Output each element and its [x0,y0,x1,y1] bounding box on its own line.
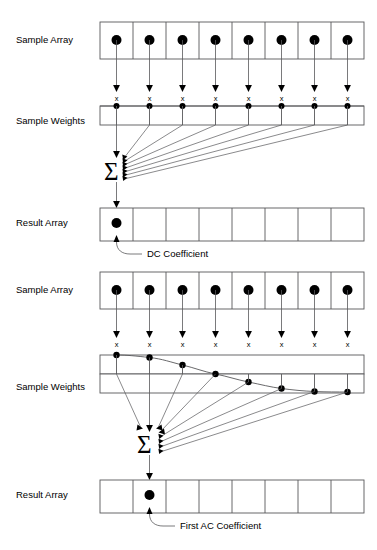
multiply-icon: x [115,94,119,103]
dc-multiply-marks: x x x x x x x x [115,94,350,103]
arrow-head [179,85,186,92]
multiply-icon: x [148,340,152,349]
arrow-head [113,85,120,92]
ac1-summation-symbol: Σ [137,431,152,458]
arrow-head [146,331,153,338]
arrow-head [278,331,285,338]
arrow-head [113,151,120,158]
arrow-head [212,331,219,338]
result-dot [112,218,122,228]
multiply-icon: x [313,94,317,103]
multiply-icon: x [280,94,284,103]
arrow-head [113,201,120,208]
arrow-head [278,85,285,92]
multiply-icon: x [247,94,251,103]
dc-sample-array [100,22,364,59]
multiply-icon: x [346,94,350,103]
ac1-result-array [100,480,364,513]
arrow-head [113,331,120,338]
multiply-icon: x [148,94,152,103]
dc-callout-label: DC Coefficient [147,248,208,259]
dc-summation-fan [113,125,347,181]
ac1-result-array-label: Result Array [16,489,68,500]
ac1-weights-array [100,352,364,395]
arrow-head [311,331,318,338]
arrow-head [158,444,163,449]
ac1-sample-array [100,272,364,309]
multiply-icon: x [181,94,185,103]
dc-weights-array [100,103,364,125]
multiply-icon: x [181,340,185,349]
dc-sample-array-label: Sample Array [16,34,73,45]
ac1-weights-outline-upper [100,355,364,374]
dc-sample-weights-label: Sample Weights [16,115,85,126]
dc-panel: Sample Array [16,22,364,259]
diagram-root: Sample Array [0,0,377,550]
arrow-head [344,85,351,92]
ac1-panel: Sample Array [16,272,364,531]
arrow-head [245,85,252,92]
arrow-head [158,439,163,444]
multiply-icon: x [115,340,119,349]
ac1-callout-label: First AC Coefficient [180,520,261,531]
dc-result-array [100,208,364,241]
arrow-head [212,85,219,92]
arrow-head [344,331,351,338]
dc-summation-symbol: Σ [104,158,119,185]
dc-weights-outline [100,106,364,125]
ac1-result-arrow [146,455,153,480]
arrow-head [158,434,163,439]
multiply-icon: x [346,340,350,349]
ac1-weights-outline-lower [100,374,364,393]
arrow-head [146,473,153,480]
arrow-head [179,331,186,338]
ac1-sample-array-label: Sample Array [16,284,73,295]
result-dot [145,490,155,500]
arrow-head [311,85,318,92]
multiply-icon: x [247,340,251,349]
ac1-sample-weights-label: Sample Weights [16,381,85,392]
multiply-icon: x [280,340,284,349]
arrow-head [146,85,153,92]
dct-weighting-diagram: Sample Array [0,0,377,550]
multiply-icon: x [214,340,218,349]
multiply-icon: x [214,94,218,103]
dc-result-arrow [113,182,120,208]
multiply-icon: x [313,340,317,349]
ac1-multiply-marks: x x x x x x x x [115,340,350,349]
dc-result-array-label: Result Array [16,217,68,228]
arrow-head [245,331,252,338]
